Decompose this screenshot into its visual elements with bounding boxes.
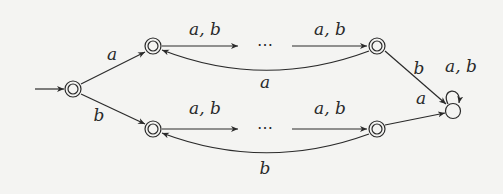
label-l1-dots: a, b <box>189 98 221 118</box>
label-un-u1: a <box>260 72 270 92</box>
label-dots-ln: a, b <box>314 98 346 118</box>
label-dots-un: a, b <box>314 19 346 39</box>
state-ln <box>369 121 385 137</box>
label-q0-u1: a <box>107 44 117 64</box>
state-u1 <box>145 38 161 54</box>
ellipsis-lower: ⋯ <box>257 118 273 137</box>
label-u1-dots: a, b <box>189 19 221 39</box>
state-q0 <box>65 81 81 97</box>
edge-ln-sink <box>385 113 445 125</box>
label-q0-l1: b <box>94 105 105 125</box>
edge-sink-loop <box>446 91 459 104</box>
ellipsis-upper: ⋯ <box>257 35 273 54</box>
label-ln-sink: a <box>416 88 426 108</box>
label-un-sink: b <box>414 58 425 78</box>
diagram-canvas: ⋯ ⋯ a b a, b a, b a a, b a, b b b a a, b <box>0 0 503 194</box>
state-l1 <box>145 121 161 137</box>
edge-q0-l1 <box>81 94 145 124</box>
label-ln-l1: b <box>260 158 271 178</box>
state-sink <box>446 104 461 119</box>
state-un <box>369 38 385 54</box>
label-sink-loop: a, b <box>445 56 477 76</box>
automaton-diagram: ⋯ ⋯ a b a, b a, b a a, b a, b b b a a, b <box>0 0 503 194</box>
